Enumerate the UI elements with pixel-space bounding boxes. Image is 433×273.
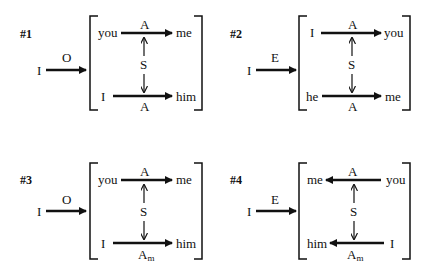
entry-source: I: [247, 63, 251, 78]
diagram-canvas: #1 I O you A me S I A him #2 I E I A you…: [0, 0, 433, 273]
entry-label: E: [271, 50, 279, 65]
middle-label: S: [140, 204, 147, 219]
panel-number: #1: [20, 27, 32, 41]
bottom-arrow-label: A: [348, 99, 358, 114]
top-right-node: me: [176, 172, 192, 187]
entry-label: E: [271, 192, 279, 207]
panel-1: #1 I O you A me S I A him: [20, 16, 202, 114]
bottom-left-node: I: [101, 236, 105, 251]
top-arrow-label: A: [348, 164, 358, 179]
panel-2: #2 I E I A you S he A me: [230, 16, 410, 114]
panel-number: #2: [230, 27, 242, 41]
left-bracket: [90, 16, 98, 110]
top-arrow-label: A: [348, 17, 358, 32]
top-left-node: me: [307, 172, 323, 187]
bottom-left-node: I: [101, 89, 105, 104]
top-arrow-label: A: [140, 164, 150, 179]
panel-4: #4 I E me A you S him Am I: [230, 163, 410, 263]
left-bracket: [299, 163, 307, 259]
bottom-right-node: him: [176, 236, 196, 251]
middle-label: S: [140, 57, 147, 72]
panel-3: #3 I O you A me S I Am him: [20, 163, 202, 263]
top-arrow-label: A: [140, 17, 150, 32]
bottom-arrow-label: Am: [347, 247, 363, 263]
panel-number: #3: [20, 173, 32, 187]
bottom-left-node: him: [307, 236, 327, 251]
bottom-right-node: me: [385, 89, 401, 104]
bottom-arrow-label: Am: [138, 247, 154, 263]
top-right-node: you: [384, 25, 404, 40]
top-right-node: me: [176, 25, 192, 40]
entry-source: I: [37, 63, 41, 78]
bottom-right-node: him: [176, 89, 196, 104]
top-left-node: you: [98, 25, 118, 40]
entry-source: I: [247, 204, 251, 219]
bottom-arrow-label: A: [140, 99, 150, 114]
top-left-node: I: [310, 25, 314, 40]
bottom-left-node: he: [306, 89, 319, 104]
bottom-right-node: I: [390, 236, 394, 251]
panel-number: #4: [230, 173, 242, 187]
entry-label: O: [62, 50, 71, 65]
top-left-node: you: [98, 172, 118, 187]
left-bracket: [90, 163, 98, 259]
top-right-node: you: [386, 172, 406, 187]
entry-label: O: [62, 192, 71, 207]
entry-source: I: [37, 204, 41, 219]
middle-label: S: [350, 204, 357, 219]
middle-label: S: [348, 57, 355, 72]
